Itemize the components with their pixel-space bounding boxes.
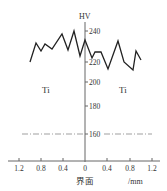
y-ticks: 240 220 200 180 160 — [85, 27, 101, 139]
x-axis-label: 界面 — [76, 176, 94, 186]
x-tick-labels: 1.2 0.8 0.4 0 0.4 0.8 1.2 — [14, 164, 157, 173]
y-tick-180: 180 — [89, 102, 101, 111]
x-tick-0: 0 — [83, 164, 87, 173]
x-tick-left-0.4: 0.4 — [58, 164, 68, 173]
x-tick-right-1.2: 1.2 — [147, 164, 157, 173]
x-tick-left-1.2: 1.2 — [14, 164, 24, 173]
y-tick-240: 240 — [89, 27, 101, 36]
x-tick-right-0.8: 0.8 — [125, 164, 135, 173]
material-label-right: Ti — [119, 85, 127, 95]
y-tick-220: 220 — [89, 58, 101, 67]
x-tick-left-0.8: 0.8 — [36, 164, 46, 173]
x-axis-unit: /mm — [128, 177, 143, 186]
y-tick-200: 200 — [89, 78, 101, 87]
y-tick-160: 160 — [89, 130, 101, 139]
material-label-left: Ti — [42, 85, 50, 95]
hardness-chart: HV 240 220 200 180 160 1.2 0.8 0.4 0 0.4… — [0, 0, 167, 191]
x-tick-right-0.4: 0.4 — [102, 164, 112, 173]
y-axis-label: HV — [79, 12, 91, 21]
